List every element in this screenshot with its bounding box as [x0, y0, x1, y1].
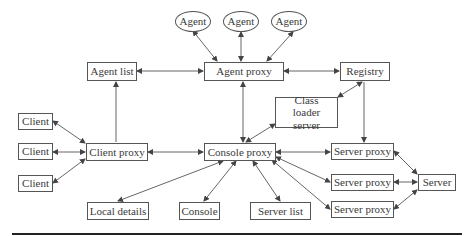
agent-node-3: Agent	[271, 11, 307, 32]
server-proxy-node-2: Server proxy	[331, 174, 394, 191]
agent-node-1: Agent	[175, 11, 211, 32]
server-proxy-node-1: Server proxy	[331, 143, 394, 160]
client-node-3: Client	[18, 175, 53, 192]
agent-proxy-node: Agent proxy	[204, 62, 284, 81]
registry-node: Registry	[340, 62, 390, 81]
client-node-1: Client	[18, 113, 53, 130]
client-proxy-node: Client proxy	[86, 143, 148, 161]
agent-list-node: Agent list	[87, 62, 137, 81]
server-list-node: Server list	[250, 202, 311, 220]
console-node: Console	[179, 202, 220, 220]
connector-layer	[0, 0, 473, 236]
client-node-2: Client	[18, 143, 53, 160]
local-details-node: Local details	[87, 202, 149, 220]
console-proxy-node: Console proxy	[204, 143, 276, 161]
server-proxy-node-3: Server proxy	[331, 201, 394, 218]
bottom-rule	[12, 233, 462, 235]
agent-node-2: Agent	[223, 11, 259, 32]
server-node: Server	[418, 174, 456, 191]
class-loader-server-node: Class loader server	[275, 97, 338, 128]
